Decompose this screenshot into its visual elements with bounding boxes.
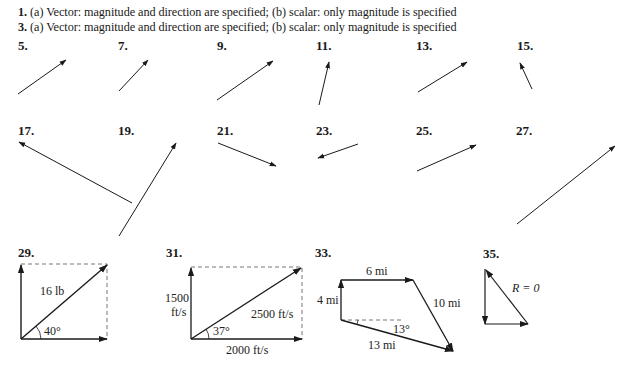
figure-31-vertical-label-unit: ft/s (171, 305, 187, 319)
figure-33-angle-label: 13° (393, 322, 410, 336)
figure-29-angle-label: 40° (44, 324, 61, 338)
figure-33-bottom-label: 13 mi (368, 338, 396, 352)
vector-arrow-13 (418, 62, 467, 92)
vector-arrow-7 (119, 60, 148, 91)
figure-35-resultant-label: R = 0 (511, 281, 539, 295)
vector-arrow-11 (319, 62, 329, 105)
vector-arrow-23 (318, 144, 358, 158)
figure-35-diagram: R = 0 (485, 269, 539, 324)
figure-31-resultant-label: 2500 ft/s (251, 307, 294, 321)
figure-33-diagram: 6 mi 4 mi 10 mi 13° 13 mi (317, 264, 461, 352)
figure-31-angle-label: 37° (213, 324, 230, 338)
vector-arrow-9 (217, 61, 273, 100)
vector-arrow-25 (417, 145, 476, 171)
figure-29-resultant-label: 16 lb (40, 284, 64, 298)
figure-31-horizontal-label: 2000 ft/s (226, 343, 269, 357)
figure-29-diagram: 16 lb 40° (21, 264, 107, 339)
figure-31-vertical-label-value: 1500 (165, 291, 189, 305)
vector-arrow-15 (520, 63, 532, 89)
figure-33-top-label: 6 mi (366, 264, 388, 278)
vector-arrow-17 (19, 142, 132, 203)
figure-33-right-label: 10 mi (433, 296, 461, 310)
figure-31-diagram: 1500 ft/s 2500 ft/s 37° 2000 ft/s (165, 267, 302, 357)
vector-arrow-19 (119, 143, 176, 236)
vector-arrow-27 (517, 146, 615, 224)
figure-33-left-label: 4 mi (317, 293, 339, 307)
vector-figures: 16 lb 40° 1500 ft/s 2500 ft/s 37° 2000 f… (0, 0, 629, 366)
vector-arrow-21 (218, 143, 276, 166)
vector-arrow-5 (18, 60, 66, 94)
